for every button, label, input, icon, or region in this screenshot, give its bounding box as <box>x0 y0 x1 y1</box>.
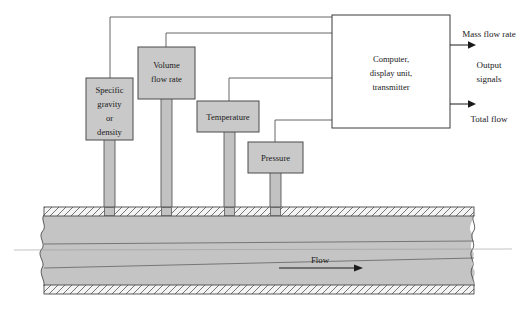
wire-volume-flow-rate <box>166 33 332 47</box>
diagram-canvas: Specific gravity or density Volume flow … <box>0 0 524 313</box>
sensor-label-pressure: Pressure <box>261 153 290 163</box>
output-signals-group: Mass flow rate Output signals Total flow <box>450 29 516 124</box>
wall-gap-specific-gravity <box>105 208 115 216</box>
pipe-interior-fill <box>40 215 475 286</box>
output-label-mass-flow-rate: Mass flow rate <box>462 29 516 39</box>
wall-gap-volume-flow-rate <box>162 208 172 216</box>
sensor-label-specific-gravity-line-1: Specific <box>95 85 123 95</box>
output-arrow-total-flow <box>450 100 476 108</box>
stem-temperature <box>224 131 235 215</box>
wall-gap-pressure <box>271 208 281 216</box>
wire-pressure <box>275 120 332 142</box>
flow-measurement-diagram: Specific gravity or density Volume flow … <box>0 0 524 313</box>
output-arrow-mass-flow-rate <box>450 41 476 49</box>
output-arrow-head-mass-flow-rate <box>468 41 476 49</box>
sensor-label-temperature: Temperature <box>206 112 249 122</box>
sensor-label-volume-flow-rate-line-1: Volume <box>153 60 180 70</box>
output-arrow-head-total-flow <box>468 100 476 108</box>
stem-volume-flow-rate <box>161 98 172 215</box>
sensor-label-specific-gravity-line-4: density <box>97 127 123 137</box>
computer-label-line-3: transmitter <box>372 82 409 92</box>
pipe-bottom-wall <box>44 285 474 294</box>
flow-label: Flow <box>311 255 330 265</box>
wire-temperature <box>229 78 332 101</box>
computer-label-line-1: Computer, <box>373 54 409 64</box>
computer-unit-box[interactable]: Computer, display unit, transmitter <box>332 15 450 128</box>
wall-gap-temperature <box>225 208 235 216</box>
sensor-label-specific-gravity-line-2: gravity <box>97 99 122 109</box>
sensor-label-volume-flow-rate-line-2: flow rate <box>151 74 182 84</box>
process-pipe: Flow <box>14 207 512 294</box>
sensor-box-pressure[interactable]: Pressure <box>248 142 303 173</box>
sensor-label-specific-gravity-line-3: or <box>106 113 113 123</box>
sensor-box-temperature[interactable]: Temperature <box>197 101 259 132</box>
stem-specific-gravity <box>104 139 115 215</box>
output-label-total-flow: Total flow <box>470 114 508 124</box>
pipe-top-wall <box>44 207 474 216</box>
output-group-label-line-1: Output <box>476 60 502 70</box>
sensor-box-volume-flow-rate[interactable]: Volume flow rate <box>138 47 195 99</box>
sensor-box-rect-volume-flow-rate <box>138 47 195 99</box>
computer-label-line-2: display unit, <box>370 68 413 78</box>
sensor-box-specific-gravity[interactable]: Specific gravity or density <box>86 78 133 140</box>
output-group-label-line-2: signals <box>476 74 501 84</box>
